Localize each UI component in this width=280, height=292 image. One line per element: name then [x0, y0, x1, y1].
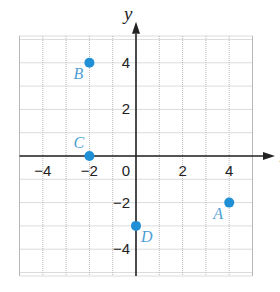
point-label-b: B — [73, 65, 83, 82]
x-tick-label: 2 — [178, 162, 186, 179]
y-axis-arrow-icon — [132, 22, 140, 34]
y-axis-label: y — [122, 3, 133, 24]
point-label-a: A — [212, 205, 223, 222]
point-d — [131, 221, 141, 231]
x-tick-label: −2 — [81, 162, 98, 179]
coordinate-plane: xy−4−202442−2−4ABCD — [0, 0, 280, 292]
point-a — [224, 198, 234, 208]
y-tick-label: 4 — [122, 54, 130, 71]
y-tick-label: −4 — [113, 240, 130, 257]
y-tick-label: −2 — [113, 194, 130, 211]
point-label-d: D — [140, 228, 153, 245]
x-axis-arrow-icon — [263, 152, 275, 160]
x-axis-label: x — [279, 145, 280, 166]
point-c — [84, 151, 94, 161]
point-b — [84, 58, 94, 68]
x-tick-label: 0 — [122, 162, 130, 179]
point-label-c: C — [73, 134, 84, 151]
y-tick-label: 2 — [122, 100, 130, 117]
x-tick-label: −4 — [34, 162, 51, 179]
x-tick-label: 4 — [225, 162, 233, 179]
